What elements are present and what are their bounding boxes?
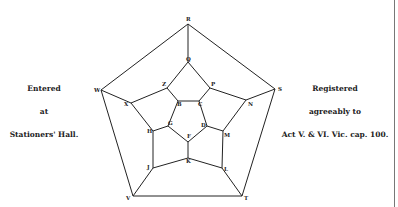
edge-Q-P: [188, 62, 210, 88]
vertex-label-C: C: [198, 101, 203, 107]
edge-V-J: [133, 168, 153, 196]
edge-S-N: [246, 89, 275, 100]
edge-Z-B: [167, 88, 178, 101]
vertex-label-N: N: [248, 101, 253, 107]
edge-S-T: [242, 89, 275, 196]
edge-H-X: [131, 103, 153, 131]
vertex-label-Q: Q: [186, 56, 191, 62]
vertex-label-B: B: [177, 101, 182, 107]
vertex-label-H: H: [147, 128, 152, 134]
vertex-label-D: D: [201, 122, 206, 128]
edge-T-L: [222, 168, 242, 196]
vertex-label-K: K: [186, 158, 191, 164]
right-note-line2: agreeably to: [300, 107, 370, 116]
vertex-label-Z: Z: [162, 81, 166, 87]
vertex-label-W: W: [93, 87, 101, 93]
edge-Z-Q: [167, 62, 188, 88]
vertex-label-J: J: [146, 164, 150, 171]
edge-P-C: [199, 88, 210, 101]
edge-P-N: [210, 88, 246, 100]
edge-L-K: [188, 158, 222, 168]
edge-F-G: [168, 126, 188, 142]
left-note-line1: Entered: [20, 84, 68, 93]
vertex-label-S: S: [278, 86, 282, 92]
vertex-label-G: G: [168, 120, 173, 126]
right-note-line1: Registered: [300, 84, 370, 93]
edge-K-J: [153, 158, 188, 168]
vertex-label-M: M: [224, 132, 230, 138]
graph-edges: [101, 24, 275, 196]
left-note-line2: at: [20, 107, 68, 116]
edge-N-M: [223, 100, 246, 131]
edge-M-D: [207, 126, 223, 131]
vertex-label-V: V: [125, 195, 131, 201]
vertex-label-F: F: [187, 133, 191, 139]
vertex-label-X: X: [124, 101, 129, 107]
left-note-line3: Stationers' Hall.: [4, 130, 84, 139]
vertex-label-P: P: [211, 81, 215, 87]
vertex-label-T: T: [244, 195, 249, 201]
right-border-rule: [394, 0, 395, 207]
right-note-line3: Act V. & VI. Vic. cap. 100.: [280, 130, 390, 139]
edge-M-L: [222, 131, 223, 168]
edge-W-R: [101, 24, 188, 90]
vertex-label-L: L: [224, 166, 228, 172]
edge-X-Z: [131, 88, 167, 103]
dodecahedron-graph: RSTVWQPNMLKJHXZBCDFG: [0, 0, 398, 207]
vertex-label-R: R: [186, 16, 191, 22]
edge-R-S: [188, 24, 275, 89]
edge-H-G: [153, 126, 168, 131]
